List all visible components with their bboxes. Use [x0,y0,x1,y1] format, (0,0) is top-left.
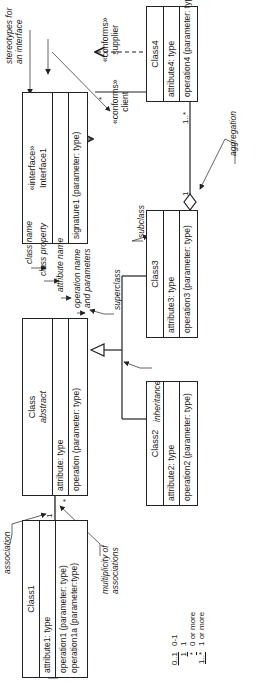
operation-name-line2: and parameters [82,248,92,308]
legend-symbol: 1 [179,652,188,680]
interface1-name: Interface1 [38,93,49,243]
stereotypes-line2: an interface [14,8,24,64]
association-label: association [2,531,12,574]
aggregation-label: aggregation [228,111,238,156]
class3-operation: operation3 (parameter: type) [179,211,195,337]
class3-attribute: attribute3: type [163,211,179,337]
interface1-operation: signature1 (parameter: type) [68,93,84,243]
inheritance-label: inheritance [152,380,162,422]
conforms-client-label: «conforms» client [110,80,130,124]
class-abstract-box[interactable]: Class abstract attribute: type operation… [22,318,88,496]
multiplicity-line2: associations [110,545,120,594]
class1-attribute: attribute1: type [39,521,55,677]
class4-operation: operation4 (parameter: type) [179,7,195,101]
class-operation: operation (parameter: type) [68,319,84,495]
multiplicity-legend: 0..1 0-1 1 1 * 0 or more 1..* 1 or more [170,612,206,680]
operation-name-line1: operation name [72,248,82,308]
legend-meaning: 0-1 [170,634,179,646]
multiplicity-class3: 1 [182,192,190,196]
legend-row: 0..1 0-1 [170,612,179,680]
stereotypes-line1: stereotypes for [4,8,14,64]
conforms-supplier-label: «conforms» supplier [100,18,120,62]
uml-class-diagram: Class1 attribute1: type operation1 (para… [0,0,261,684]
stereotypes-label: stereotypes for an interface [4,8,24,64]
conforms-supplier-role: supplier [110,18,120,62]
class4-box[interactable]: Class4 attribute4: type operation4 (para… [146,6,198,102]
legend-symbol: 0..1 [170,652,179,680]
class4-name: Class4 [147,7,163,101]
legend-meaning: 1 or more [197,612,206,646]
multiplicity-class4: 1..* [182,112,190,124]
legend-row: 1..* 1 or more [197,612,206,680]
class-name: Class [27,319,38,495]
class1-operations: operation1 (parameter: type) operation1a… [55,521,82,677]
multiplicity-interface: * [98,97,106,100]
conforms-supplier-stereo: «conforms» [100,18,110,62]
class1-name: Class1 [23,521,39,677]
superclass-label: superclass [112,269,122,310]
class3-box[interactable]: Class3 attribute3: type operation3 (para… [146,210,198,338]
conforms-client-stereo: «conforms» [110,80,120,124]
legend-row: 1 1 [179,612,188,680]
class1-operation-1: operation1 (parameter: type) [58,525,69,673]
conforms-client-role: client [120,80,130,124]
class1-operation-2: operation1a (parameter:type) [69,525,80,673]
interface1-attributes-empty [52,93,68,243]
class-property-label: class property [38,223,48,276]
multiplicity-label: multiplicity of associations [100,545,120,594]
class4-attribute: attribute4: type [163,7,179,101]
multiplicity-class: * [62,499,70,502]
class3-name: Class3 [147,211,163,337]
legend-symbol: * [188,652,197,680]
class-name-label: class name [24,221,34,264]
class2-operation: operation2 (parameter: type) [179,382,195,505]
legend-row: * 0 or more [188,612,197,680]
multiplicity-class1: 1 [46,514,54,518]
class-stereotype: abstract [38,319,49,495]
class1-box[interactable]: Class1 attribute1: type operation1 (para… [22,520,88,678]
legend-meaning: 0 or more [188,612,197,646]
legend-symbol: 1..* [197,652,206,680]
operation-name-label: operation name and parameters [72,248,92,308]
multiplicity-line1: multiplicity of [100,545,110,594]
legend-meaning: 1 [179,642,188,646]
class2-attribute: attribute2: type [163,382,179,505]
attribute-name-label: attribute name [55,238,65,292]
subclass-label: subclass [136,205,146,238]
class-attribute: attribute: type [52,319,68,495]
